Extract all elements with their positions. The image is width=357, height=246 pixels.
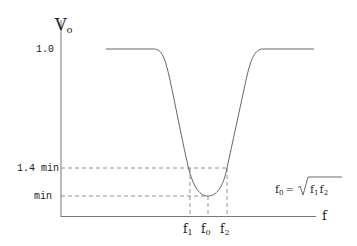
response-curve bbox=[106, 49, 314, 196]
geometric-mean-formula: f0= f1f2 bbox=[275, 177, 342, 197]
svg-text:f1f2: f1f2 bbox=[310, 183, 328, 197]
band-reject-response-diagram: Vo 1.0 1.4 min min f1 f0 f2 f f0= f1f2 bbox=[0, 0, 357, 246]
y-axis-label: Vo bbox=[54, 15, 73, 35]
svg-text:f0=: f0= bbox=[275, 183, 294, 197]
y-tick-1-4-min: 1.4 min bbox=[17, 163, 59, 174]
x-axis-label: f bbox=[322, 208, 328, 223]
x-tick-f2: f2 bbox=[220, 222, 230, 237]
y-tick-1-0: 1.0 bbox=[36, 44, 54, 55]
x-tick-f1: f1 bbox=[183, 222, 193, 237]
guide-lines bbox=[61, 168, 227, 216]
x-tick-f0: f0 bbox=[201, 222, 211, 237]
y-tick-min: min bbox=[34, 191, 52, 202]
